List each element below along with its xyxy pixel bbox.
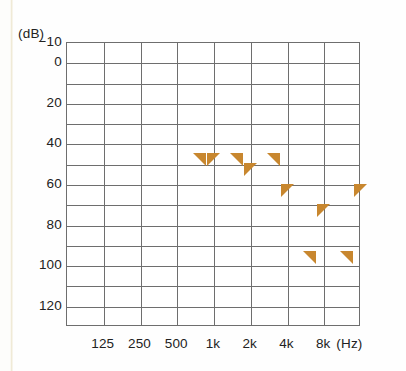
x-axis-tick-label: 2k (242, 336, 257, 351)
audiogram-figure: (dB) −10020406080100120 1252505001k2k4k8… (0, 0, 406, 371)
x-axis-tick-label: 4k (279, 336, 294, 351)
x-axis-tick-label: 8k (316, 336, 331, 351)
x-axis-unit-label: (Hz) (336, 336, 362, 351)
x-axis-tick-label: 250 (128, 336, 151, 351)
x-axis-tick-label: 500 (165, 336, 188, 351)
x-axis-labels: 1252505001k2k4k8k(Hz) (0, 0, 406, 371)
x-axis-tick-label: 1k (206, 336, 221, 351)
x-axis-tick-label: 125 (91, 336, 114, 351)
